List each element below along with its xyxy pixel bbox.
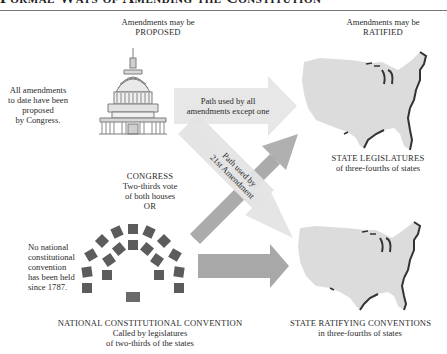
congress-note-line: by Congress. [0,115,78,125]
convention-note-line: convention [28,262,88,272]
congress-detail2: of both houses [100,191,200,201]
congress-note-line: proposed [0,105,78,115]
convention-detail2: of two-thirds of the states [40,338,260,348]
us-map-legislatures-icon [302,52,426,150]
congress-detail1: Two-thirds vote [100,181,200,191]
convention-note-line: since 1787. [28,282,88,292]
proposed-header-line2: PROPOSED [108,27,208,37]
or-connector: OR [100,201,200,211]
us-map-conventions-icon [298,222,420,310]
main-path-line1: Path used by all [178,96,278,106]
convention-note-line: No national [28,242,88,252]
convention-detail1: Called by legislatures [40,328,260,338]
convention-note-line: constitutional [28,252,88,262]
congress-name: CONGRESS [100,171,200,181]
congress-note-line: to date have been [0,95,78,105]
main-path-label: Path used by all amendments except one [178,96,278,116]
ratified-header-line1: Amendments may be [333,17,433,27]
main-path-line2: amendments except one [178,106,278,116]
convention-name: NATIONAL CONSTITUTIONAL CONVENTION [40,318,260,328]
proposed-header-line1: Amendments may be [108,17,208,27]
legislatures-label: STATE LEGISLATURES of three-fourths of s… [318,153,438,173]
convention-note: No national constitutional convention ha… [28,242,88,292]
congress-note: All amendments to date have been propose… [0,85,78,125]
conventions-detail: in three-fourths of states [290,328,430,338]
ratified-header: Amendments may be RATIFIED [333,17,433,37]
conventions-name: STATE RATIFYING CONVENTIONS [290,318,430,328]
convention-label: NATIONAL CONSTITUTIONAL CONVENTION Calle… [40,318,260,348]
congress-note-line: All amendments [0,85,78,95]
ratified-header-line2: RATIFIED [333,27,433,37]
legislatures-detail: of three-fourths of states [318,163,438,173]
diagram-graphics [0,0,447,354]
legislatures-name: STATE LEGISLATURES [318,153,438,163]
conventions-label: STATE RATIFYING CONVENTIONS in three-fou… [290,318,430,338]
proposed-header: Amendments may be PROPOSED [108,17,208,37]
convention-note-line: has been held [28,272,88,282]
congress-label: CONGRESS Two-thirds vote of both houses … [100,171,200,211]
convention-seating-icon [81,224,184,302]
convention-path-arrow [198,244,289,288]
capitol-building-icon [99,48,167,134]
